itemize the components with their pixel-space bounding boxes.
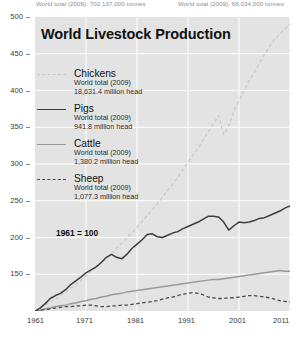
x-axis-label: 1961 (27, 316, 44, 325)
series-line-pigs (35, 206, 290, 311)
series-line-sheep (35, 293, 290, 311)
legend-swatch-icon (37, 74, 66, 75)
y-axis-label: 400 (0, 87, 23, 95)
y-axis-tick (26, 91, 30, 92)
top-note-left: World total (2009): 702,137,000 tonnes (36, 0, 146, 8)
x-axis-label: 2011 (273, 316, 289, 325)
legend-swatch-icon (37, 179, 66, 180)
x-axis-label: 1981 (127, 316, 144, 325)
y-axis-label: 200 (0, 234, 23, 242)
legend-swatch-icon (37, 109, 66, 110)
legend-sublabel-value: 941.8 million head (74, 123, 132, 132)
legend-sublabel-value: 18,631.4 million head (74, 88, 142, 97)
baseline-annotation: 1961 = 100 (56, 228, 98, 238)
page-title: World Livestock Production (41, 26, 231, 42)
y-axis-tick (26, 201, 30, 202)
y-axis-tick (26, 274, 30, 275)
y-axis-label: 350 (0, 123, 23, 131)
legend-sublabel-value: 1,077.3 million head (74, 193, 138, 202)
y-axis-label: 150 (0, 270, 23, 278)
chart-root: World total (2009): 702,137,000 tonnes W… (0, 0, 300, 351)
y-axis-label: 500 (0, 13, 23, 21)
x-axis-label: 2001 (229, 316, 246, 325)
y-axis-tick (26, 238, 30, 239)
y-axis-tick (26, 17, 30, 18)
top-note-right: World total (2009): 68,034,000 tonnes (178, 0, 284, 8)
series-line-cattle (35, 271, 290, 311)
legend-swatch-icon (37, 144, 66, 145)
y-axis-label: 450 (0, 50, 23, 58)
x-axis-label: 1991 (178, 316, 195, 325)
y-axis-tick (26, 54, 30, 55)
y-axis-label: 250 (0, 197, 23, 205)
x-axis-label: 1971 (76, 316, 93, 325)
y-axis-tick (26, 127, 30, 128)
legend-sublabel-value: 1,380.2 million head (74, 158, 138, 167)
y-axis-label: 300 (0, 160, 23, 168)
y-axis-tick (26, 164, 30, 165)
